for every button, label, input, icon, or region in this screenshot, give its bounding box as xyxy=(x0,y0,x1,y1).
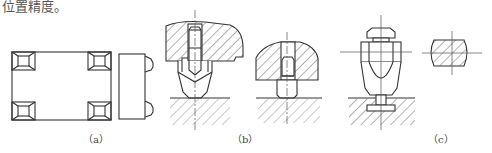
ground-hatch-b2 xyxy=(258,99,320,123)
side-view xyxy=(119,54,153,119)
figure-b-pin-1 xyxy=(166,22,243,99)
figure-b-pin-2 xyxy=(256,42,322,98)
ground-hatch-b1 xyxy=(170,99,230,125)
figure-label-a: （a） xyxy=(83,131,109,146)
figure-label-c: （c） xyxy=(428,131,454,146)
corner-pad-tl xyxy=(12,52,35,70)
figure-label-b: （b） xyxy=(232,131,258,146)
corner-pad-tr xyxy=(88,52,111,70)
corner-pad-bl xyxy=(12,102,35,120)
figure-a xyxy=(12,52,153,120)
corner-pad-br xyxy=(88,102,111,120)
figure-c-adjustable-support xyxy=(348,28,415,98)
